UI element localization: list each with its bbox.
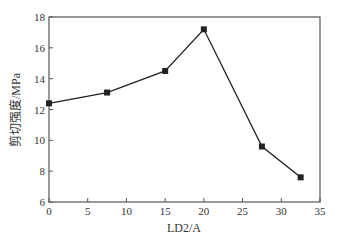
y-tick-label: 10 xyxy=(34,134,46,146)
x-axis-label: LD2/A xyxy=(167,221,201,235)
x-tick-label: 25 xyxy=(237,205,249,217)
y-tick-label: 18 xyxy=(34,11,46,23)
y-axis-label: 剪切强度/MPa xyxy=(8,72,23,147)
x-tick-label: 0 xyxy=(46,205,52,217)
x-tick-label: 15 xyxy=(160,205,172,217)
x-tick-label: 20 xyxy=(198,205,210,217)
x-tick-label: 5 xyxy=(85,205,91,217)
data-point-marker xyxy=(162,68,168,74)
data-series xyxy=(46,26,304,180)
plot-border xyxy=(49,17,320,202)
shear-strength-chart: 05101520253035 681012141618 LD2/A 剪切强度/M… xyxy=(0,0,338,244)
data-point-marker xyxy=(201,26,207,32)
x-tick-label: 35 xyxy=(315,205,327,217)
x-tick-label: 30 xyxy=(276,205,288,217)
y-tick-label: 12 xyxy=(34,104,45,116)
y-tick-label: 14 xyxy=(34,73,46,85)
x-tick-label: 10 xyxy=(121,205,133,217)
data-point-marker xyxy=(298,174,304,180)
y-axis-ticks: 681012141618 xyxy=(34,11,53,208)
data-point-marker xyxy=(104,90,110,96)
x-axis-ticks: 05101520253035 xyxy=(46,198,326,217)
y-tick-label: 8 xyxy=(40,165,46,177)
y-tick-label: 6 xyxy=(40,196,46,208)
plot-frame xyxy=(49,17,320,202)
data-point-marker xyxy=(259,144,265,150)
y-tick-label: 16 xyxy=(34,42,46,54)
series-line xyxy=(49,29,301,177)
data-point-marker xyxy=(46,100,52,106)
